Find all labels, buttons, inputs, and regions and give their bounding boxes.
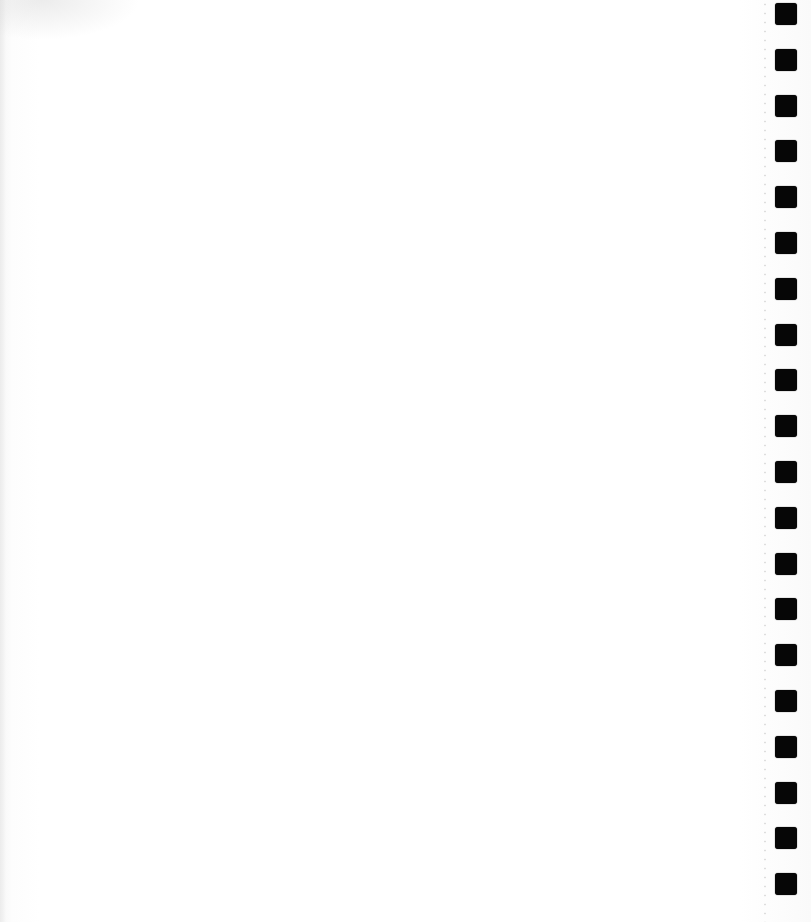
punch-hole-column <box>775 0 799 922</box>
punch-hole <box>775 553 797 575</box>
punch-hole <box>775 736 797 758</box>
punch-hole <box>775 140 797 162</box>
punch-hole <box>775 690 797 712</box>
punch-hole <box>775 644 797 666</box>
scan-smudge <box>0 0 140 40</box>
perforation-line <box>764 0 766 922</box>
punch-hole <box>775 186 797 208</box>
notebook-page <box>0 0 811 922</box>
punch-hole <box>775 507 797 529</box>
punch-hole <box>775 232 797 254</box>
punch-hole <box>775 827 797 849</box>
punch-hole <box>775 873 797 895</box>
punch-hole <box>775 598 797 620</box>
punch-hole <box>775 278 797 300</box>
page-left-edge-shadow <box>0 0 6 922</box>
punch-hole <box>775 782 797 804</box>
punch-hole <box>775 3 797 25</box>
punch-hole <box>775 95 797 117</box>
punch-hole <box>775 461 797 483</box>
punch-hole <box>775 415 797 437</box>
punch-hole <box>775 49 797 71</box>
punch-hole <box>775 324 797 346</box>
punch-hole <box>775 369 797 391</box>
